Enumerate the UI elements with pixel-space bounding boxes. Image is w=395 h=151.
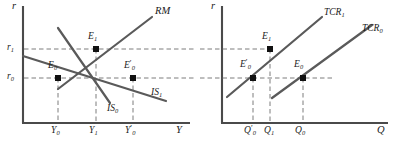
point-label-E0-right: E0 [294, 60, 303, 70]
curve-label-IS0: IS0 [107, 104, 118, 114]
point-label-E1-right: E1 [262, 32, 271, 42]
point-Eprime0-left [130, 75, 136, 81]
tick-label-Qprime0: Q′0 [244, 126, 256, 136]
point-E0-right [300, 75, 306, 81]
right-axis-label-r: r [211, 1, 215, 12]
tick-label-Y1: Y1 [89, 126, 98, 136]
curve-label-TCR1: TCR1 [324, 8, 345, 18]
tick-label-Y0: Y0 [51, 126, 60, 136]
tick-label-Q1: Q1 [264, 126, 274, 136]
left-axis-label-Y: Y [176, 125, 182, 136]
tick-label-r1: r1 [7, 43, 14, 53]
tick-label-Q0: Q0 [295, 126, 305, 136]
curve-IS0 [58, 28, 110, 103]
point-label-Eprime0-left: E′0 [124, 61, 135, 71]
curve-label-TCR0: TCR0 [362, 24, 383, 34]
tick-label-Yprime0: Y′0 [125, 126, 135, 136]
curve-TCR1 [227, 17, 322, 97]
point-E0-left [55, 75, 61, 81]
point-E1-right [267, 46, 273, 52]
curve-label-IS1: IS1 [151, 88, 162, 98]
tick-label-r0: r0 [7, 72, 14, 82]
point-Eprime0-right [250, 75, 256, 81]
point-label-E1-left: E1 [88, 32, 97, 42]
point-E1-left [93, 46, 99, 52]
curve-label-RM: RM [155, 6, 170, 17]
economics-figure: r Y r1 r0 Y0 Y1 Y′0 RM IS1 IS0 E1 E0 E′0… [0, 0, 395, 151]
left-axis-label-r: r [12, 1, 16, 12]
point-label-Eprime0-right: E′0 [240, 60, 251, 70]
curve-IS1 [23, 56, 166, 101]
right-axis-label-Q: Q [377, 125, 385, 136]
curve-TCR0 [272, 25, 372, 98]
point-label-E0-left: E0 [48, 61, 57, 71]
